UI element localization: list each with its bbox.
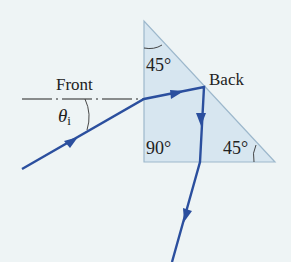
- front-face-label: Front: [56, 76, 93, 93]
- theta-symbol: θ: [58, 105, 67, 126]
- apex-angle-label: 45°: [146, 56, 171, 74]
- theta-subscript: i: [67, 113, 71, 128]
- diagram-graphics: [0, 0, 291, 262]
- back-face-label: Back: [209, 71, 244, 88]
- cropped-caption-text: [0, 0, 291, 2]
- incidence-angle-label: θi: [58, 106, 71, 127]
- exit-ray-arrow-icon: [183, 208, 192, 222]
- base-angle-label: 45°: [223, 139, 248, 157]
- incident-ray-arrow-icon: [64, 137, 78, 148]
- incidence-angle-arc: [85, 99, 89, 130]
- right-angle-label: 90°: [146, 139, 171, 157]
- prism-diagram: Front Back θi 45° 90° 45°: [0, 0, 291, 262]
